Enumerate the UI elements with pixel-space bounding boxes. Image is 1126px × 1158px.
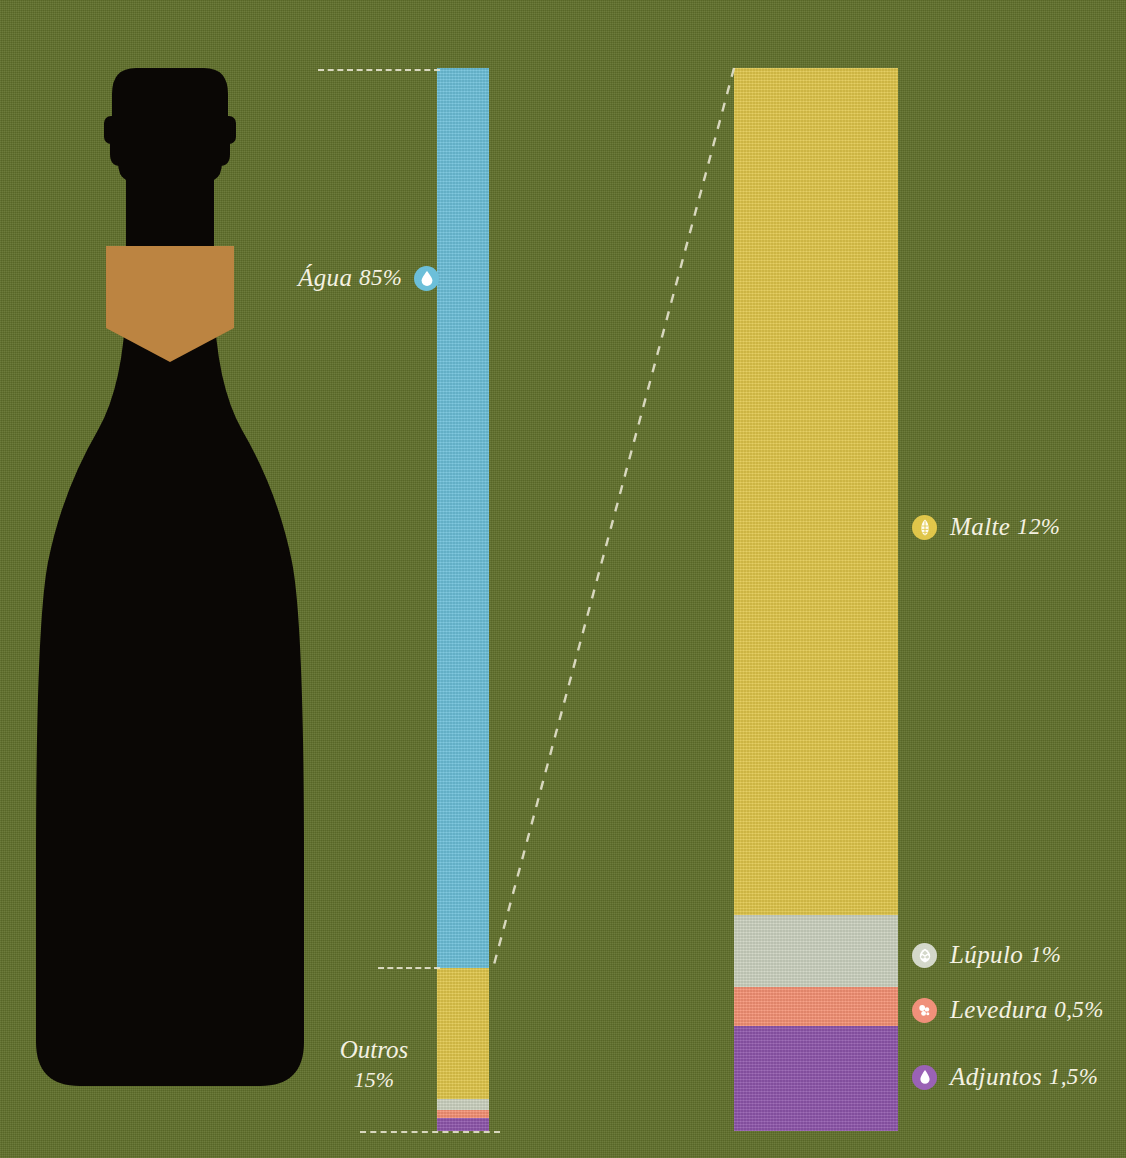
water-drop-icon (414, 266, 439, 291)
legend-value-agua: 85% (359, 265, 402, 291)
legend-value-outros: 15% (318, 1066, 430, 1094)
legend-item-outros: Outros 15% (318, 1034, 430, 1094)
bar-segment-adjuntos (437, 1118, 489, 1131)
legend-item-lupulo: Lúpulo 1% (912, 941, 1061, 969)
guide-line-top (318, 69, 440, 71)
bottle-body (36, 300, 304, 1086)
legend-label-agua: Água (298, 264, 352, 292)
legend-label-levedura: Levedura (950, 996, 1048, 1024)
bar-segment-lupulo (437, 1099, 489, 1110)
grain-icon (912, 515, 937, 540)
legend-value-lupulo: 1% (1030, 942, 1061, 968)
hop-cone-icon (912, 943, 937, 968)
legend-value-levedura: 0,5% (1054, 997, 1104, 1023)
legend-item-malte: Malte 12% (912, 513, 1060, 541)
legend-value-adjuntos: 1,5% (1049, 1064, 1099, 1090)
detail-segment-levedura (734, 987, 898, 1026)
legend-item-levedura: Levedura 0,5% (912, 996, 1104, 1024)
guide-line-others-top (378, 967, 440, 969)
legend-label-outros: Outros (318, 1034, 430, 1066)
bottle-cap-icon (112, 68, 228, 122)
yeast-cells-icon (912, 998, 937, 1023)
legend-value-malte: 12% (1017, 514, 1060, 540)
detail-segment-adjuntos (734, 1026, 898, 1131)
legend-label-adjuntos: Adjuntos (950, 1063, 1042, 1091)
legend-item-agua: Água 85% (298, 264, 439, 292)
guide-line-diagonal (470, 60, 830, 990)
infographic-canvas: Água 85% Malte 12% Lúpul (0, 0, 1126, 1158)
guide-line-bottom (360, 1131, 500, 1133)
droplet-icon (912, 1065, 937, 1090)
legend-label-malte: Malte (950, 513, 1010, 541)
beer-bottle-illustration (0, 0, 340, 1158)
legend-label-lupulo: Lúpulo (950, 941, 1023, 969)
legend-item-adjuntos: Adjuntos 1,5% (912, 1063, 1098, 1091)
bar-segment-levedura (437, 1110, 489, 1118)
